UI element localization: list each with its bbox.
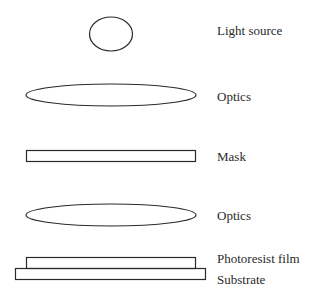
substrate-label: Substrate <box>217 273 265 286</box>
optics-upper-lens <box>26 84 196 106</box>
photoresist-film-label: Photoresist film <box>217 252 300 265</box>
light-source-label: Light source <box>217 24 282 37</box>
mask-label: Mask <box>217 150 246 163</box>
photoresist-film-layer <box>27 258 196 269</box>
optics-lower-label: Optics <box>217 209 251 222</box>
substrate-layer <box>16 269 206 280</box>
optics-upper-label: Optics <box>217 90 251 103</box>
light-source-shape <box>90 17 133 51</box>
optics-lower-lens <box>26 204 196 226</box>
mask-plate <box>27 151 196 162</box>
